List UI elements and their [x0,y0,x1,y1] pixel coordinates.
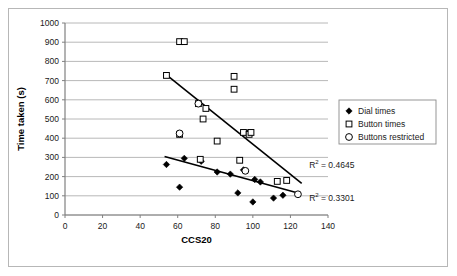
y-axis-title: Time taken (s) [15,87,26,151]
data-point-button-times-8 [197,156,203,162]
data-point-button-times-11 [241,130,247,136]
legend-label-1: Button times [358,119,405,129]
chart-figure: 0100200300400500600700800900100002040608… [0,0,457,276]
data-point-button-times-14 [248,130,254,136]
y-tick-label-800: 800 [45,56,59,66]
y-tick-label-700: 700 [45,76,59,86]
legend-label-0: Dial times [358,106,395,116]
data-point-button-times-7 [214,138,220,144]
y-tick-label-600: 600 [45,95,59,105]
data-point-button-times-10 [231,86,237,92]
y-tick-label-0: 0 [54,210,59,220]
legend-marker-2 [346,134,353,141]
y-tick-label-400: 400 [45,133,59,143]
x-axis-title: CCS20 [181,234,212,245]
x-tick-label-140: 140 [321,221,335,231]
y-tick-label-100: 100 [45,191,59,201]
y-tick-label-1000: 1000 [40,18,59,28]
data-point-button-times-15 [274,179,280,185]
scatter-chart: 0100200300400500600700800900100002040608… [0,0,457,276]
data-point-buttons-restricted-0 [195,100,202,107]
data-point-button-times-9 [231,73,237,79]
y-tick-label-200: 200 [45,172,59,182]
data-point-button-times-12 [237,157,243,163]
data-point-button-times-2 [181,39,187,45]
x-tick-label-40: 40 [135,221,145,231]
legend-label-2: Buttons restricted [358,132,424,142]
data-point-buttons-restricted-2 [242,167,249,174]
y-tick-label-500: 500 [45,114,59,124]
data-point-buttons-restricted-3 [295,191,302,198]
data-point-buttons-restricted-1 [176,130,183,137]
y-tick-label-300: 300 [45,152,59,162]
x-tick-label-20: 20 [98,221,108,231]
x-tick-label-0: 0 [63,221,68,231]
x-tick-label-80: 80 [211,221,221,231]
data-point-button-times-6 [200,116,206,122]
data-point-button-times-0 [164,73,170,79]
x-tick-label-120: 120 [283,221,297,231]
x-tick-label-100: 100 [246,221,260,231]
data-point-button-times-5 [203,106,209,112]
legend-marker-1 [346,121,352,127]
y-tick-label-900: 900 [45,37,59,47]
data-point-button-times-16 [284,178,290,184]
x-tick-label-60: 60 [173,221,183,231]
